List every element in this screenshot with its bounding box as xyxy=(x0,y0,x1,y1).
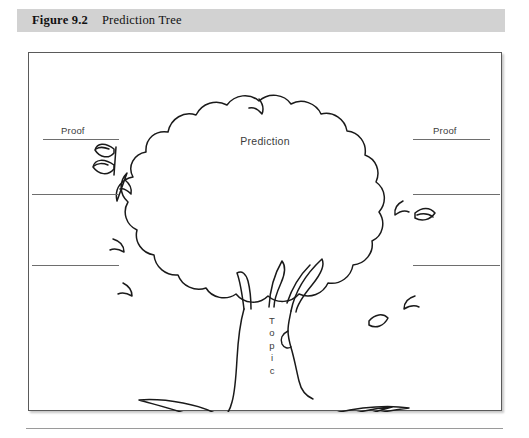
branch-right xyxy=(291,259,323,312)
tree-canopy-outline xyxy=(116,95,384,302)
right-write-line-2 xyxy=(413,194,500,195)
topic-label: T o p i c xyxy=(262,315,282,377)
figure-number: Figure 9.2 xyxy=(32,13,88,28)
root-left xyxy=(139,400,223,412)
canopy-notch-left-mid xyxy=(110,239,124,252)
trunk-left-contour xyxy=(223,309,244,412)
topic-letter: p xyxy=(262,340,282,352)
left-write-line-1 xyxy=(43,139,119,140)
figure-caption-banner: Figure 9.2 Prediction Tree xyxy=(17,9,505,32)
canopy-notch-right-upper xyxy=(395,201,409,215)
branch-right-inner xyxy=(287,265,310,303)
branch-left xyxy=(237,272,251,309)
topic-letter: o xyxy=(262,327,282,339)
left-write-line-3 xyxy=(32,265,119,266)
leaf-upper-left-top-vein xyxy=(96,148,109,150)
trunk-right-contour xyxy=(288,311,313,399)
figure-title: Prediction Tree xyxy=(102,13,182,28)
left-write-line-2 xyxy=(32,194,119,195)
right-write-line-1 xyxy=(413,139,490,140)
topic-letter: T xyxy=(262,315,282,327)
topic-letter: i xyxy=(262,352,282,364)
figure-frame: Prediction T o p i c Proof Proof xyxy=(28,52,502,411)
right-proof-label: Proof xyxy=(433,125,457,136)
canopy-notch-left-lower xyxy=(118,283,132,296)
leaf-lower-right xyxy=(369,315,388,327)
canopy-notch-right-lower xyxy=(404,296,419,309)
topic-letter: c xyxy=(262,365,282,377)
prediction-label: Prediction xyxy=(29,135,501,147)
right-write-line-3 xyxy=(413,265,500,266)
page-separator-rule xyxy=(26,428,503,429)
left-proof-label: Proof xyxy=(61,125,85,136)
leaf-upper-left-bottom-vein xyxy=(94,164,108,166)
canopy-notch-top-center xyxy=(249,99,263,114)
leaf-upper-left-bottom xyxy=(93,160,114,173)
